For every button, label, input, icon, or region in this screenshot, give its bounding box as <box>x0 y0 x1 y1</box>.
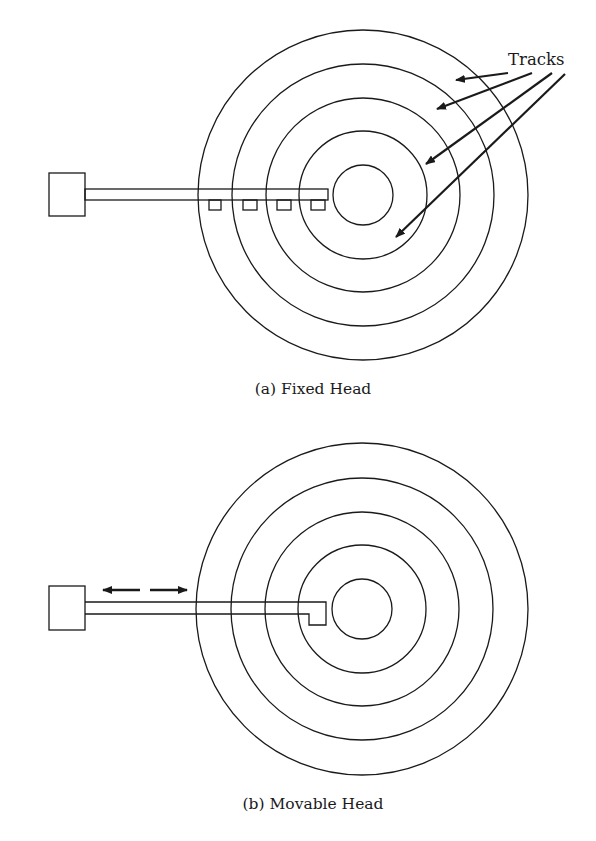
track-pointer-arrow <box>456 73 508 80</box>
actuator-box <box>49 586 85 630</box>
disk-platter-b <box>196 443 528 775</box>
movable-head-arm <box>85 602 326 625</box>
track-pointer-arrow <box>426 73 552 164</box>
track-circle <box>198 30 528 360</box>
caption-fixed-head: (a) Fixed Head <box>255 380 372 398</box>
read-write-head <box>311 200 325 210</box>
track-circle <box>266 98 460 292</box>
disk-head-diagram: Tracks (a) Fixed Head (b) Movable Head <box>0 0 596 841</box>
track-circle <box>332 579 392 639</box>
track-pointer-arrow <box>437 73 532 109</box>
track-circle <box>231 478 493 740</box>
read-write-head <box>243 200 257 210</box>
track-circle <box>265 512 459 706</box>
fixed-head-assembly <box>49 173 328 216</box>
panel-fixed-head: Tracks (a) Fixed Head <box>49 30 565 398</box>
read-write-head <box>209 200 221 210</box>
track-circle <box>298 545 426 673</box>
tracks-label: Tracks <box>508 50 564 69</box>
track-circle <box>299 131 427 259</box>
track-pointer-arrow <box>396 74 565 237</box>
track-circle <box>196 443 528 775</box>
head-arm <box>85 189 328 200</box>
actuator-box <box>49 173 85 216</box>
track-circle <box>333 165 393 225</box>
read-write-head <box>277 200 291 210</box>
panel-movable-head: (b) Movable Head <box>49 443 528 813</box>
disk-platter-a <box>198 30 528 360</box>
caption-movable-head: (b) Movable Head <box>243 795 384 813</box>
movable-head-assembly <box>49 586 326 630</box>
